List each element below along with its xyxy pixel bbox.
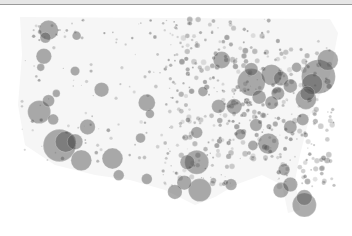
bubble-boise[interactable]	[70, 66, 79, 75]
county-dot	[313, 107, 318, 112]
county-dot	[229, 23, 233, 27]
county-dot	[169, 33, 171, 35]
county-dot	[188, 108, 191, 111]
county-dot	[194, 75, 199, 80]
county-dot	[278, 178, 280, 180]
county-dot	[159, 72, 161, 74]
bubble-cincinnati[interactable]	[265, 96, 278, 109]
bubble-nashville[interactable]	[250, 119, 262, 131]
bubble-memphis[interactable]	[235, 129, 246, 140]
county-dot	[169, 77, 172, 80]
bubble-new-orleans[interactable]	[225, 179, 237, 191]
bubble-charlotte[interactable]	[284, 120, 297, 133]
bubble-houston[interactable]	[188, 179, 211, 202]
county-dot	[227, 142, 229, 144]
county-dot	[192, 34, 196, 38]
bubble-spokane[interactable]	[72, 31, 81, 40]
bubble-atlanta[interactable]	[258, 133, 279, 154]
bubble-birmingham[interactable]	[248, 141, 258, 151]
bubble-denver[interactable]	[138, 94, 155, 111]
county-dot	[192, 141, 197, 146]
bubble-reno[interactable]	[53, 90, 61, 98]
county-dot	[279, 49, 282, 52]
county-dot	[124, 43, 126, 45]
bubble-las-vegas[interactable]	[80, 119, 96, 135]
county-dot	[330, 177, 333, 180]
county-dot	[99, 148, 102, 151]
county-dot	[89, 63, 92, 66]
county-dot	[279, 134, 280, 135]
county-dot	[268, 127, 271, 130]
county-dot	[109, 136, 113, 140]
county-dot	[193, 121, 196, 124]
bubble-milwaukee[interactable]	[245, 63, 258, 76]
county-dot	[164, 162, 167, 165]
bubble-colorado-springs[interactable]	[146, 109, 155, 118]
bubble-jacksonville[interactable]	[278, 164, 290, 176]
bubble-indianapolis[interactable]	[252, 90, 266, 104]
bubble-albuquerque[interactable]	[136, 133, 146, 143]
county-dot	[228, 150, 234, 156]
bubble-san-antonio[interactable]	[168, 185, 183, 200]
bubble-phoenix[interactable]	[102, 148, 123, 169]
county-dot	[240, 158, 241, 159]
county-dot	[52, 46, 56, 50]
bubble-oklahoma-city[interactable]	[191, 127, 203, 139]
county-dot	[313, 112, 317, 116]
bubble-sacramento[interactable]	[43, 95, 55, 107]
county-dot	[226, 122, 229, 125]
county-dot	[234, 89, 237, 92]
county-dot	[238, 46, 242, 50]
county-dot	[276, 39, 280, 43]
county-dot	[32, 34, 36, 38]
county-dot	[21, 129, 22, 130]
bubble-el-paso[interactable]	[141, 174, 152, 185]
bubble-tacoma[interactable]	[40, 32, 51, 43]
bubble-kansas-city[interactable]	[212, 99, 226, 113]
bubble-st-louis[interactable]	[226, 99, 242, 115]
bubble-minneapolis[interactable]	[213, 51, 230, 68]
county-dot	[217, 79, 220, 82]
bubble-san-diego[interactable]	[71, 150, 92, 171]
county-dot	[160, 133, 163, 136]
county-dot	[138, 23, 139, 24]
county-dot	[165, 103, 168, 106]
bubble-buffalo[interactable]	[292, 62, 302, 72]
us-bubble-map[interactable]	[0, 5, 352, 236]
county-dot	[274, 58, 277, 61]
county-dot	[35, 75, 38, 78]
county-dot	[140, 22, 142, 24]
bubble-omaha[interactable]	[198, 87, 208, 97]
bubble-boston[interactable]	[317, 50, 338, 71]
county-dot	[187, 148, 188, 149]
county-dot	[318, 123, 324, 129]
bubble-fresno[interactable]	[48, 114, 59, 125]
bubble-salt-lake[interactable]	[94, 82, 109, 97]
county-dot	[242, 151, 248, 157]
county-dot	[300, 133, 303, 136]
county-dot	[250, 153, 255, 158]
bubble-tucson[interactable]	[113, 170, 124, 181]
bubble-raleigh[interactable]	[297, 113, 309, 125]
county-dot	[201, 177, 202, 178]
county-dot	[259, 33, 264, 38]
bubble-baltimore[interactable]	[300, 86, 315, 101]
bubble-portland[interactable]	[36, 48, 52, 64]
bubble-inland-empire[interactable]	[67, 134, 83, 150]
county-dot	[64, 32, 65, 33]
bubble-pittsburgh[interactable]	[283, 79, 297, 93]
county-dot	[313, 144, 315, 146]
bubble-orlando[interactable]	[283, 177, 298, 192]
bubble-salem[interactable]	[37, 64, 45, 72]
county-dot	[203, 80, 208, 85]
county-dot	[314, 158, 319, 163]
bubble-fort-lauderdale[interactable]	[297, 190, 313, 206]
county-dot	[81, 85, 82, 86]
county-dot	[247, 108, 250, 111]
bubble-fort-worth[interactable]	[180, 155, 195, 170]
county-dot	[198, 117, 203, 122]
county-dot	[174, 26, 177, 29]
county-dot	[153, 71, 154, 72]
county-dot	[211, 30, 213, 32]
county-dot	[186, 43, 190, 47]
